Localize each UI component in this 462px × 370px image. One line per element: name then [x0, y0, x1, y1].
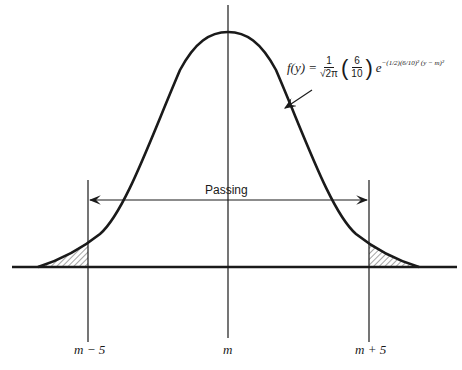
formula-exponent: −(1/2)(6/10)² (y − m)²	[382, 59, 444, 67]
axis-label-center: m	[223, 342, 232, 358]
axis-label-left: m − 5	[74, 342, 105, 358]
formula-lhs: f(y) =	[287, 60, 317, 76]
passing-label: Passing	[205, 183, 248, 197]
formula-ratio: 6 10	[351, 56, 362, 79]
formula-coefficient: 1 √2π	[320, 56, 338, 79]
axis-label-right: m + 5	[355, 342, 386, 358]
formula-base: e−(1/2)(6/10)² (y − m)²	[376, 59, 444, 76]
density-formula: f(y) = 1 √2π ( 6 10 ) e−(1/2)(6/10)² (y …	[287, 56, 444, 79]
